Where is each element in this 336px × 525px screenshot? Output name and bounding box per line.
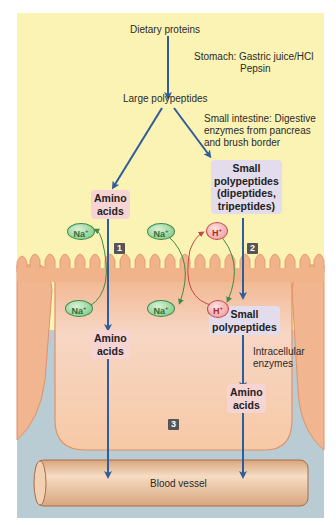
small-intestine-label-3: and brush border: [204, 137, 280, 149]
step-2-badge: 2: [247, 243, 258, 254]
blood-vessel-label: Blood vessel: [150, 478, 207, 490]
pepsin-label: Pepsin: [240, 63, 271, 75]
hydrogen-ion-cell: H+: [207, 300, 229, 318]
intracellular-label-2: enzymes: [253, 358, 293, 370]
hydrogen-ion-lumen: H+: [206, 222, 228, 240]
protein-digestion-diagram: Dietary proteins Stomach: Gastric juice/…: [0, 0, 336, 525]
sodium-ion-cell-1: Na+: [65, 300, 93, 317]
amino-acids-cell-right-box: Amino acids: [227, 384, 266, 413]
intracellular-label-1: Intracellular: [253, 346, 305, 358]
step-3-badge: 3: [168, 419, 179, 430]
small-intestine-label-1: Small intestine: Digestive: [204, 113, 316, 125]
sodium-ion-lumen-2: Na+: [147, 223, 175, 240]
diagram-graphics: [0, 0, 336, 525]
small-polypeptides-lumen-box: Small polypeptides (dipeptides, tripepti…: [211, 160, 282, 214]
sodium-ion-lumen-1: Na+: [67, 223, 95, 240]
amino-acids-lumen-box: Amino acids: [91, 190, 130, 219]
sodium-ion-cell-2: Na+: [147, 300, 175, 317]
brush-border: [17, 254, 324, 282]
dietary-proteins-label: Dietary proteins: [130, 24, 200, 36]
step-1-badge: 1: [114, 243, 125, 254]
stomach-enzymes-label: Stomach: Gastric juice/HCl: [194, 51, 313, 63]
small-intestine-label-2: enzymes from pancreas: [204, 125, 311, 137]
large-polypeptides-label: Large polypeptides: [123, 93, 208, 105]
amino-acids-cell-box: Amino acids: [91, 330, 130, 359]
